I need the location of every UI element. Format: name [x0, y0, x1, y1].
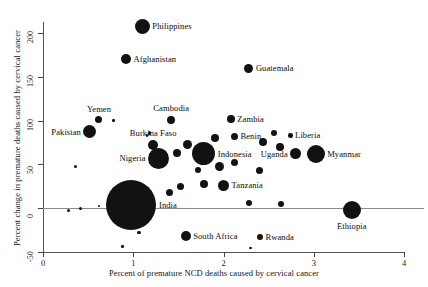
point-label-liberia: Liberia — [295, 130, 320, 140]
bubble-unlabeled[interactable] — [148, 131, 152, 135]
point-label-guatemala: Guatemala — [256, 63, 294, 73]
point-label-burkina-faso: Burkina Faso — [130, 128, 177, 138]
y-tick-label: 50 — [26, 166, 35, 174]
bubble-unlabeled[interactable] — [173, 149, 181, 157]
x-tick-label: 2 — [214, 258, 234, 268]
bubble-tanzania[interactable] — [218, 180, 229, 191]
bubble-liberia[interactable] — [288, 133, 292, 137]
bubble-unlabeled[interactable] — [146, 134, 148, 136]
y-tick — [38, 77, 43, 78]
zero-reference-line — [43, 208, 424, 209]
point-label-uganda: Uganda — [261, 149, 288, 159]
y-axis-line — [43, 22, 44, 252]
point-label-nigeria: Nigeria — [119, 153, 145, 163]
point-label-ethiopia: Ethiopia — [337, 221, 367, 231]
bubble-unlabeled[interactable] — [67, 209, 70, 212]
bubble-unlabeled[interactable] — [112, 119, 114, 121]
point-label-myanmar: Myanmar — [327, 149, 361, 159]
point-label-zambia: Zambia — [237, 114, 264, 124]
x-tick — [314, 252, 315, 257]
point-label-benin: Benin — [240, 131, 261, 141]
bubble-uganda[interactable] — [290, 148, 301, 159]
x-tick-label: 4 — [394, 258, 414, 268]
bubble-afghanistan[interactable] — [121, 54, 131, 64]
point-label-afghanistan: Afghanistan — [134, 54, 177, 64]
bubble-unlabeled[interactable] — [166, 189, 173, 196]
bubble-guatemala[interactable] — [244, 64, 253, 73]
bubble-rwanda[interactable] — [257, 234, 263, 240]
y-tick — [38, 164, 43, 165]
bubble-benin[interactable] — [231, 133, 238, 140]
y-tick-label: 100 — [26, 119, 35, 131]
point-label-cambodia: Cambodia — [153, 103, 189, 113]
bubble-ethiopia[interactable] — [343, 201, 361, 219]
point-label-south-africa: South Africa — [193, 231, 237, 241]
bubble-unlabeled[interactable] — [177, 183, 184, 190]
bubble-unlabeled[interactable] — [215, 162, 224, 171]
bubble-zambia[interactable] — [227, 115, 235, 123]
bubble-indonesia[interactable] — [192, 142, 215, 165]
y-tick — [38, 33, 43, 34]
y-tick — [38, 208, 43, 209]
x-axis-title: Percent of premature NCD deaths caused b… — [0, 268, 428, 278]
bubble-unlabeled[interactable] — [246, 200, 252, 206]
bubble-nigeria[interactable] — [148, 148, 169, 169]
point-label-india: India — [159, 200, 177, 210]
point-label-yemen: Yemen — [87, 104, 111, 114]
point-label-tanzania: Tanzania — [232, 180, 263, 190]
bubble-pakistan[interactable] — [83, 125, 96, 138]
bubble-unlabeled[interactable] — [74, 165, 77, 168]
bubble-myanmar[interactable] — [307, 145, 325, 163]
bubble-unlabeled[interactable] — [183, 140, 192, 149]
x-tick — [224, 252, 225, 257]
x-tick-label: 1 — [123, 258, 143, 268]
bubble-yemen[interactable] — [95, 116, 102, 123]
bubble-unlabeled[interactable] — [271, 130, 277, 136]
y-tick-label: 0 — [26, 214, 35, 218]
bubble-unlabeled[interactable] — [259, 138, 267, 146]
bubble-unlabeled[interactable] — [137, 231, 141, 235]
y-tick-label: 150 — [26, 75, 35, 87]
bubble-unlabeled[interactable] — [276, 143, 284, 151]
bubble-philippines[interactable] — [135, 19, 150, 34]
bubble-unlabeled[interactable] — [121, 245, 123, 247]
bubble-unlabeled[interactable] — [231, 159, 238, 166]
bubble-unlabeled[interactable] — [79, 207, 82, 210]
bubble-unlabeled[interactable] — [256, 167, 263, 174]
bubble-cambodia[interactable] — [167, 116, 175, 124]
bubble-unlabeled[interactable] — [249, 247, 251, 249]
bubble-unlabeled[interactable] — [200, 180, 208, 188]
x-tick-label: 0 — [33, 258, 53, 268]
point-label-rwanda: Rwanda — [265, 232, 293, 242]
point-label-philippines: Philippines — [152, 21, 191, 31]
bubble-india[interactable] — [106, 180, 156, 230]
y-tick — [38, 121, 43, 122]
x-tick-label: 3 — [304, 258, 324, 268]
bubble-south-africa[interactable] — [181, 231, 191, 241]
y-axis-title: Percent change in premature deaths cause… — [12, 30, 22, 246]
y-tick-label: 200 — [26, 31, 35, 43]
scatter-chart: -50050100150200 01234 Percent change in … — [0, 0, 428, 287]
x-tick — [133, 252, 134, 257]
x-tick — [43, 252, 44, 257]
bubble-unlabeled[interactable] — [211, 134, 219, 142]
point-label-pakistan: Pakistan — [51, 127, 81, 137]
bubble-unlabeled[interactable] — [278, 201, 284, 207]
point-label-indonesia: Indonesia — [218, 149, 252, 159]
bubble-unlabeled[interactable] — [195, 167, 201, 173]
x-tick — [404, 252, 405, 257]
